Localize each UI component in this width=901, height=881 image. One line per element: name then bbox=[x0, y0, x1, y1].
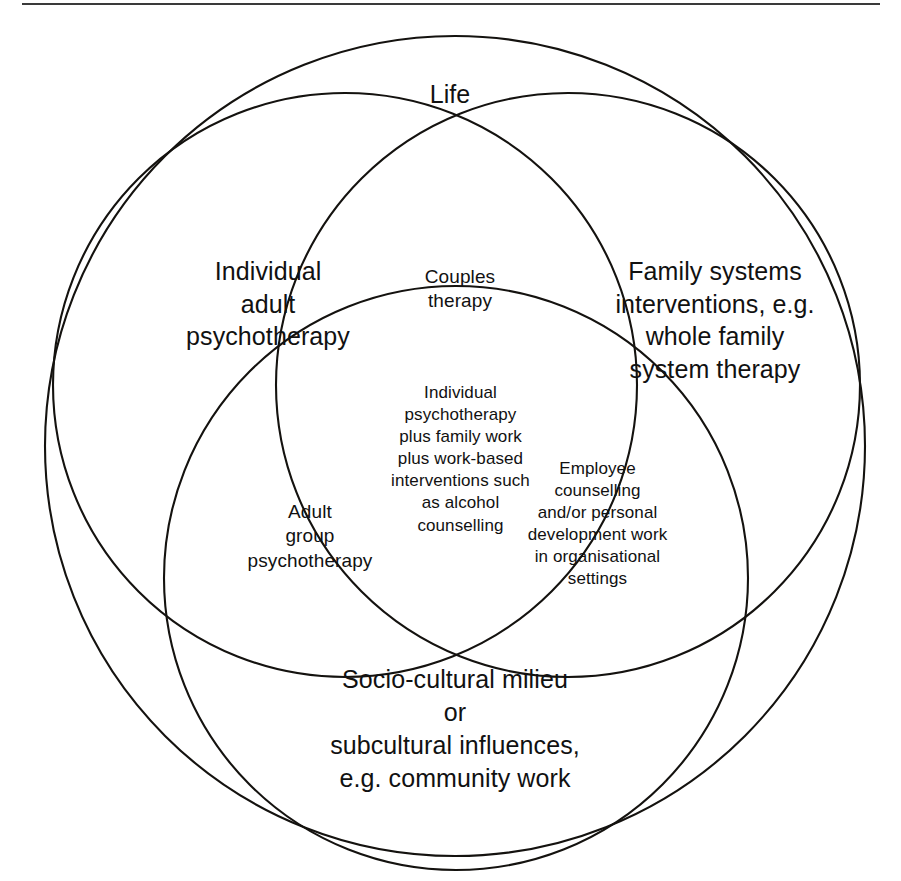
label-adult-group-psychotherapy: Adult group psychotherapy bbox=[215, 500, 405, 573]
label-individual-adult-psychotherapy: Individual adult psychotherapy bbox=[128, 255, 408, 353]
venn-diagram-figure: Life Individual adult psychotherapy Fami… bbox=[0, 0, 901, 881]
label-couples-therapy: Couples therapy bbox=[385, 265, 535, 314]
label-family-systems-interventions: Family systems interventions, e.g. whole… bbox=[570, 255, 860, 385]
label-life: Life bbox=[370, 78, 530, 111]
label-employee-counselling: Employee counselling and/or personal dev… bbox=[505, 458, 690, 591]
label-socio-cultural-milieu: Socio-cultural milieu or subcultural inf… bbox=[265, 663, 645, 795]
